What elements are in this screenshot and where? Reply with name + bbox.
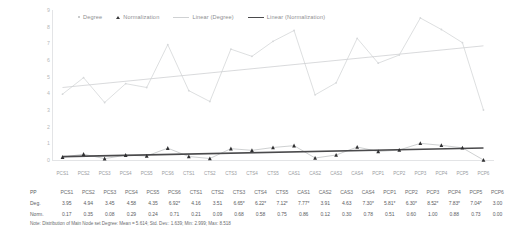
degree-data-point — [272, 40, 274, 42]
x-axis-tick-label: CTS5 — [262, 171, 283, 181]
table-column-header: PCS3 — [99, 189, 121, 195]
table-cell: 4.35 — [142, 200, 164, 206]
table-row: Norm. 0.170.350.080.290.240.710.210.090.… — [30, 208, 508, 219]
table-column-header: CTS5 — [271, 189, 293, 195]
degree-data-point — [419, 17, 421, 19]
degree-data-point — [356, 37, 358, 39]
chart-figure: Degree Normalization Linear (Degree) Lin… — [0, 0, 512, 248]
table-cell: 4.16 — [185, 200, 207, 206]
degree-data-point — [440, 29, 442, 31]
table-cell: 0.73 — [465, 211, 487, 217]
table-cell: 0.09 — [207, 211, 229, 217]
degree-data-point — [398, 54, 400, 56]
table-cell: 7.77* — [293, 200, 315, 206]
table-column-header: CAS1 — [293, 189, 315, 195]
x-axis-tick-label: PCS2 — [73, 171, 94, 181]
table-cell: 3.45 — [99, 200, 121, 206]
x-axis-tick-label: CAS4 — [347, 171, 368, 181]
degree-data-point — [209, 101, 211, 103]
table-column-header: PCP5 — [465, 189, 487, 195]
table-column-header: PCP2 — [401, 189, 423, 195]
table-cell: 0.75 — [271, 211, 293, 217]
table-column-header: PCS4 — [121, 189, 143, 195]
table-cell: 0.29 — [121, 211, 143, 217]
table-column-header: CAS4 — [357, 189, 379, 195]
x-axis-tick-label: PCP2 — [389, 171, 410, 181]
row-label-normalization: Norm. — [30, 211, 56, 217]
x-axis-tick-label: CAS3 — [326, 171, 347, 181]
table-cell: 3.00 — [487, 200, 509, 206]
degree-data-point — [188, 90, 190, 92]
normalization-data-point — [482, 158, 486, 162]
table-cell: 6.92* — [164, 200, 186, 206]
degree-data-point — [293, 30, 295, 32]
table-cell: 7.83* — [444, 200, 466, 206]
normalization-data-point — [82, 152, 86, 156]
table-cell: 3.95 — [56, 200, 78, 206]
degree-data-point — [83, 77, 85, 79]
x-axis-tick-label: PCS3 — [94, 171, 115, 181]
table-cell: 8.52* — [422, 200, 444, 206]
table-header-row: PP PCS1PCS2PCS3PCS4PCS5PCS6CTS1CTS2CTS3C… — [30, 186, 508, 197]
x-axis-tick-label: PCS1 — [52, 171, 73, 181]
degree-data-point — [483, 109, 485, 111]
degree-data-point — [251, 55, 253, 57]
degree-markers — [62, 17, 485, 111]
x-axis-tick-label: PCP6 — [473, 171, 494, 181]
table-cell: 5.81* — [379, 200, 401, 206]
table-cell: 0.08 — [99, 211, 121, 217]
normalization-markers — [61, 141, 486, 161]
table-cell: 3.91 — [314, 200, 336, 206]
table-cell: 0.71 — [164, 211, 186, 217]
table-column-header: PCP4 — [444, 189, 466, 195]
x-axis-tick-label: CTS3 — [220, 171, 241, 181]
table-column-header: PCS2 — [78, 189, 100, 195]
table-column-header: CTS4 — [250, 189, 272, 195]
table-column-header: CTS1 — [185, 189, 207, 195]
table-cell: 0.60 — [401, 211, 423, 217]
table-column-header: PCS6 — [164, 189, 186, 195]
table-cell: 0.00 — [487, 211, 509, 217]
table-cell: 0.88 — [444, 211, 466, 217]
table-column-header: CTS3 — [228, 189, 250, 195]
table-corner-label: PP — [30, 189, 56, 195]
x-axis-tick-label: CTS1 — [178, 171, 199, 181]
table-note: Note: Distribution of Main Node set Degr… — [30, 221, 508, 226]
table-column-header: CAS2 — [314, 189, 336, 195]
table-cell: 1.00 — [422, 211, 444, 217]
table-cell: 4.94 — [78, 200, 100, 206]
degree-series-line — [63, 18, 484, 110]
table-cell: 0.21 — [185, 211, 207, 217]
degree-data-point — [104, 102, 106, 104]
table-cell: 7.30* — [357, 200, 379, 206]
normalization-data-point — [166, 146, 170, 150]
plot-area: 9876543210 — [0, 10, 512, 172]
data-table: PP PCS1PCS2PCS3PCS4PCS5PCS6CTS1CTS2CTS3C… — [30, 186, 508, 219]
degree-data-point — [377, 62, 379, 64]
degree-data-point — [146, 87, 148, 89]
x-axis-tick-label: PCP5 — [452, 171, 473, 181]
table-column-header: PCS1 — [56, 189, 78, 195]
table-column-header: PCS5 — [142, 189, 164, 195]
degree-data-point — [62, 93, 64, 95]
table-cell: 0.12 — [314, 211, 336, 217]
table-cell: 6.30* — [401, 200, 423, 206]
table-row: Deg. 3.954.943.454.584.356.92*4.163.516.… — [30, 197, 508, 208]
row-label-degree: Deg. — [30, 200, 56, 206]
table-cell: 3.51 — [207, 200, 229, 206]
normalization-data-point — [355, 145, 359, 149]
x-axis-tick-label: CAS1 — [284, 171, 305, 181]
degree-data-point — [335, 82, 337, 84]
table-column-header: CAS3 — [336, 189, 358, 195]
table-cell: 4.58 — [121, 200, 143, 206]
table-cell: 0.58 — [250, 211, 272, 217]
table-column-header: PCP6 — [487, 189, 509, 195]
series-canvas — [0, 10, 512, 172]
table-cell: 0.78 — [357, 211, 379, 217]
table-cell: 0.24 — [142, 211, 164, 217]
x-axis-tick-label: CAS2 — [305, 171, 326, 181]
x-axis-tick-label: PCS5 — [136, 171, 157, 181]
table-cell: 0.17 — [56, 211, 78, 217]
table-cell: 0.51 — [379, 211, 401, 217]
x-axis-tick-label: PCP3 — [410, 171, 431, 181]
